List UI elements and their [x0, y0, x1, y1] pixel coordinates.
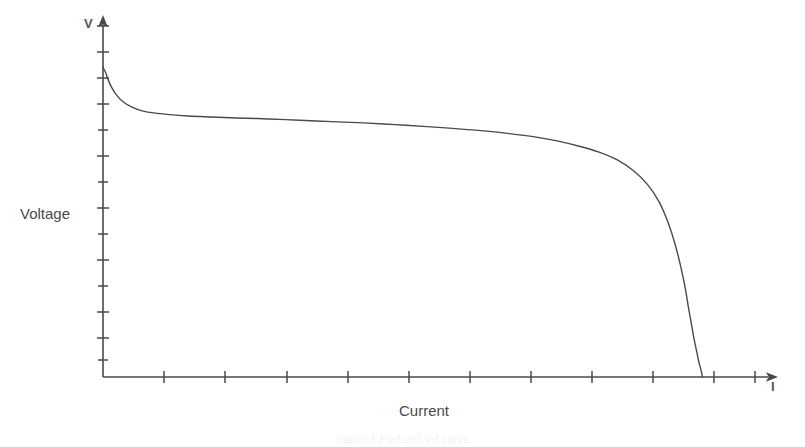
y-axis-title: Voltage: [20, 205, 70, 222]
x-axis-title: Current: [399, 402, 449, 419]
figure-caption: Figure 1 Fuel cell V-I curve: [0, 432, 805, 447]
y-axis-symbol-label: V: [84, 16, 93, 31]
axes-group: [98, 15, 778, 382]
x-axis-symbol-label: I: [771, 379, 775, 394]
polarization-curve: [103, 67, 702, 377]
